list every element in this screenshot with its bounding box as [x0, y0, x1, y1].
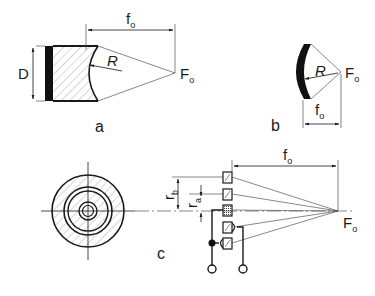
terminal-1 — [208, 265, 216, 273]
label-f-b-sub: o — [319, 111, 324, 121]
label-F-c-sub: o — [352, 224, 357, 234]
curved-transducer — [296, 44, 311, 99]
panel-a: D R fo Fo a — [18, 10, 194, 135]
caption-b: b — [271, 117, 280, 134]
piezo-element — [45, 46, 53, 101]
label-f-sub: o — [130, 20, 135, 30]
label-F-sub: o — [189, 75, 194, 85]
label-D: D — [18, 65, 29, 82]
label-f-c-sub: o — [287, 156, 292, 166]
panel-c: rb ra fo Fo c — [41, 146, 357, 273]
caption-c: c — [157, 245, 165, 262]
svg-text:Fo: Fo — [345, 64, 359, 84]
label-ra-sub: a — [193, 198, 203, 203]
label-F: F — [180, 65, 189, 82]
caption-a: a — [95, 118, 104, 135]
svg-text:fo: fo — [283, 146, 292, 166]
lens-body — [53, 46, 98, 101]
panel-b: R Fo fo b — [271, 44, 359, 134]
svg-text:Fo: Fo — [180, 65, 194, 85]
label-F-b: F — [345, 64, 354, 81]
label-F-c: F — [343, 214, 352, 231]
svg-text:fo: fo — [126, 10, 135, 30]
label-F-b-sub: o — [354, 74, 359, 84]
label-R-b: R — [315, 62, 326, 79]
svg-text:Fo: Fo — [343, 214, 357, 234]
svg-text:ra: ra — [183, 198, 203, 208]
label-rb-sub: b — [170, 190, 180, 195]
label-R: R — [107, 52, 118, 69]
svg-text:rb: rb — [160, 190, 180, 200]
terminal-2 — [239, 265, 247, 273]
focusing-rays — [232, 177, 338, 243]
svg-text:fo: fo — [315, 101, 324, 121]
annular-array-front-view — [41, 162, 135, 260]
transducer-focusing-diagram: D R fo Fo a R Fo fo b — [0, 0, 375, 296]
